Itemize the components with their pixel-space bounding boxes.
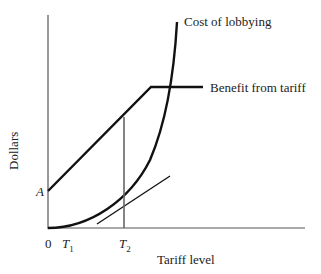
benefit-label: Benefit from tariff xyxy=(210,81,306,94)
origin-label: 0 xyxy=(45,237,52,250)
t1-label: T1 xyxy=(62,237,74,254)
a-label: A xyxy=(36,185,44,198)
y-axis-label: Dollars xyxy=(6,132,22,170)
t2-label: T2 xyxy=(119,237,131,254)
diagram-canvas xyxy=(0,0,321,274)
benefit-curve xyxy=(48,87,203,191)
cost-label: Cost of lobbying xyxy=(184,15,271,28)
tangent-line xyxy=(97,176,170,224)
x-axis-label: Tariff level xyxy=(157,253,215,266)
